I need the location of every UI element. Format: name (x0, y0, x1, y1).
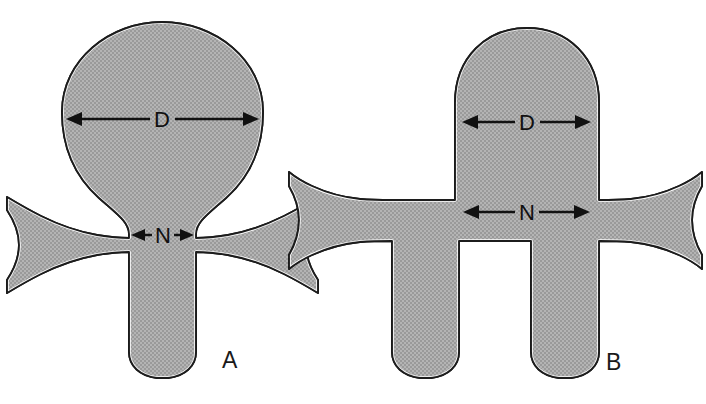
dendritic-spine-diagram: D N A (0, 0, 706, 404)
panel-b: D N B (289, 28, 702, 378)
dimension-label-n-panel-a: N (155, 223, 171, 248)
panel-a: D N A (7, 22, 318, 378)
spine-b-outline (289, 28, 702, 378)
dimension-label-d-panel-b: D (519, 110, 535, 135)
spine-a-outline (7, 22, 318, 378)
panel-letter-b: B (606, 349, 621, 375)
figure-root: D N A (0, 0, 706, 404)
panel-letter-a: A (222, 347, 238, 373)
dimension-label-n-panel-b: N (519, 200, 535, 225)
dimension-label-d-panel-a: D (154, 107, 170, 132)
